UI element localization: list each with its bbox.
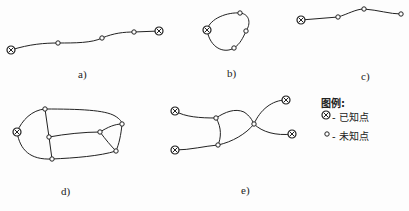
traverse-network-diagram: a) b) c) d) e) 图例: - 已知点 - 未知点 xyxy=(0,0,409,211)
unknown-point-icon xyxy=(336,15,340,19)
legend-title: 图例: xyxy=(321,95,345,110)
figure-c-branch-traverse xyxy=(301,9,401,20)
figure-d-traverse-network xyxy=(17,109,122,159)
known-point-icon xyxy=(203,26,211,34)
known-point-icon xyxy=(171,107,179,115)
legend-unknown-label: - 未知点 xyxy=(332,128,369,143)
unknown-point-icon xyxy=(120,122,124,126)
unknown-point-icon xyxy=(362,7,366,11)
known-point-icon xyxy=(7,46,15,54)
legend-known-label: - 已知点 xyxy=(332,109,369,124)
figure-b-closed-traverse xyxy=(207,13,249,50)
legend-unknown-point-icon xyxy=(325,132,329,136)
known-point-icon xyxy=(13,128,21,136)
figure-label-c: c) xyxy=(361,70,370,82)
figure-a-open-traverse xyxy=(11,31,159,50)
unknown-point-icon xyxy=(47,135,51,139)
figure-label-e: e) xyxy=(241,184,250,196)
figure-e-traverse-network xyxy=(175,100,292,150)
unknown-point-icon xyxy=(238,11,242,15)
known-point-icon xyxy=(282,96,290,104)
unknown-point-icon xyxy=(399,12,403,16)
unknown-point-icon xyxy=(50,157,54,161)
unknown-point-icon xyxy=(244,29,248,33)
known-point-icon xyxy=(288,130,296,138)
unknown-point-icon xyxy=(132,30,136,34)
figure-label-a: a) xyxy=(78,68,87,80)
unknown-point-icon xyxy=(214,116,218,120)
figure-label-d: d) xyxy=(61,185,70,197)
unknown-point-icon xyxy=(43,107,47,111)
unknown-point-icon xyxy=(100,36,104,40)
figure-label-b: b) xyxy=(227,67,236,79)
known-point-icon xyxy=(297,16,305,24)
unknown-point-icon xyxy=(232,46,236,50)
unknown-point-icon xyxy=(98,130,102,134)
unknown-point-icon xyxy=(114,149,118,153)
legend-known-point-icon xyxy=(322,111,330,119)
known-point-icon xyxy=(155,27,163,35)
known-point-icon xyxy=(171,146,179,154)
diagram-canvas xyxy=(0,0,409,211)
unknown-point-icon xyxy=(56,41,60,45)
unknown-point-icon xyxy=(252,122,256,126)
unknown-point-icon xyxy=(216,143,220,147)
